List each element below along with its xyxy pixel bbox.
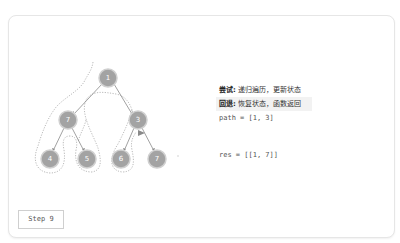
tree-node-7-right: 7 [148, 150, 166, 168]
state-info-panel: 尝试: 递归遍历，更新状态 回退: 恢复状态，函数返回 path = [1, 3… [219, 83, 389, 125]
svg-text:7: 7 [66, 116, 70, 124]
tree-node-7-left: 7 [59, 111, 77, 129]
svg-text:7: 7 [155, 155, 159, 163]
backtrack-label: 回退: [219, 100, 236, 108]
try-text: 递归遍历，更新状态 [236, 86, 301, 94]
svg-text:6: 6 [119, 155, 124, 163]
backtrack-text: 恢复状态，函数返回 [236, 100, 301, 108]
step-indicator: Step 9 [18, 210, 64, 229]
tree-node-4: 4 [41, 150, 59, 168]
tree-node-5: 5 [78, 150, 96, 168]
tree-node-3: 3 [129, 111, 147, 129]
tree-nodes: 1 7 3 4 5 6 7 [41, 69, 166, 168]
svg-text:5: 5 [85, 155, 89, 163]
result-value: res = [[1, 7]] [219, 148, 278, 162]
svg-text:3: 3 [136, 116, 140, 124]
backtrack-description: 回退: 恢复状态，函数返回 [216, 97, 312, 111]
svg-text:4: 4 [48, 155, 53, 163]
try-label: 尝试: [219, 86, 236, 94]
tree-node-1: 1 [99, 69, 117, 87]
svg-text:1: 1 [106, 74, 110, 82]
path-value: path = [1, 3] [219, 111, 389, 125]
try-description: 尝试: 递归遍历，更新状态 [219, 83, 389, 97]
tree-node-6: 6 [112, 150, 130, 168]
faint-dot [177, 155, 179, 157]
